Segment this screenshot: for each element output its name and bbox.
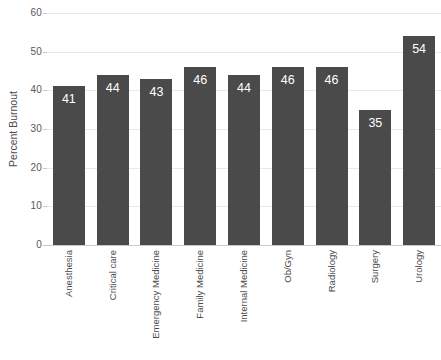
x-axis-line [47,245,441,246]
bar-value-label: 46 [316,74,348,87]
y-axis-tick-label: 20 [16,163,42,173]
bar[interactable]: 41 [53,86,85,245]
gridline [47,13,441,14]
bar-value-label: 54 [403,43,435,56]
x-axis-tick: Emergency Medicine [149,250,163,358]
x-axis-tick: Anesthesia [62,250,76,358]
bar[interactable]: 44 [228,75,260,245]
x-axis-tick: Urology [412,250,426,358]
x-axis-tick: Family Medicine [193,250,207,358]
x-axis-tick-label: Surgery [368,250,382,358]
y-axis-tick-label: 40 [16,85,42,95]
y-axis-tick-label: 50 [16,47,42,57]
x-axis-tick-label: Radiology [325,250,339,358]
bar[interactable]: 46 [316,67,348,245]
x-axis-tick-label: Family Medicine [193,250,207,358]
x-axis-tick-label: Ob/Gyn [281,250,295,358]
bar[interactable]: 46 [272,67,304,245]
x-axis-tick-label: Internal Medicine [237,250,251,358]
bar[interactable]: 46 [184,67,216,245]
x-axis-tick: Ob/Gyn [281,250,295,358]
bar-value-label: 46 [184,74,216,87]
x-axis-tick-label: Anesthesia [62,250,76,358]
x-axis-tick-label: Urology [412,250,426,358]
bar-value-label: 44 [228,82,260,95]
y-axis-tick-label: 60 [16,8,42,18]
plot-area: 414443464446463554 [47,13,441,245]
x-axis-tick: Critical care [106,250,120,358]
bar-value-label: 35 [359,117,391,130]
x-axis-tick: Radiology [325,250,339,358]
y-axis-tick-label: 10 [16,201,42,211]
bar[interactable]: 44 [97,75,129,245]
x-axis-tick: Internal Medicine [237,250,251,358]
bar-value-label: 44 [97,82,129,95]
bar[interactable]: 54 [403,36,435,245]
bar-value-label: 46 [272,74,304,87]
bar-value-label: 43 [140,86,172,99]
bar[interactable]: 43 [140,79,172,245]
x-axis-tick-label: Emergency Medicine [149,250,163,358]
bar-value-label: 41 [53,93,85,106]
bar-chart: Percent Burnout 0102030405060 4144434644… [0,0,441,360]
bar[interactable]: 35 [359,110,391,245]
x-axis-tick: Surgery [368,250,382,358]
x-axis-tick-label: Critical care [106,250,120,358]
gridline [47,52,441,53]
y-axis-tick-label: 0 [16,240,42,250]
y-axis-tick-label: 30 [16,124,42,134]
